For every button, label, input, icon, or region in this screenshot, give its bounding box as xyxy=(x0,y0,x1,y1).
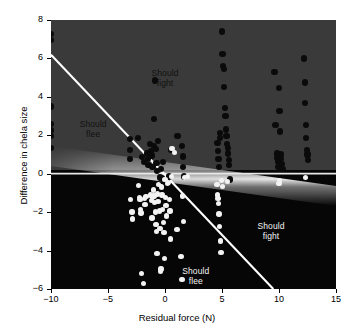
data-point xyxy=(218,250,223,255)
data-point xyxy=(153,160,159,166)
data-point xyxy=(155,199,160,204)
data-point xyxy=(271,69,277,75)
should-flee-lower: Should flee xyxy=(173,266,219,286)
x-tick-mark xyxy=(108,289,109,293)
data-point xyxy=(180,153,186,159)
data-point xyxy=(180,193,185,198)
y-tick-mark xyxy=(47,174,51,175)
data-point xyxy=(303,122,309,128)
data-point xyxy=(159,184,164,189)
data-point xyxy=(223,133,229,139)
x-tick-label: 10 xyxy=(264,294,294,304)
data-point xyxy=(272,122,278,128)
y-tick-label: −4 xyxy=(21,245,43,255)
should-fight-lower: Should fight xyxy=(248,221,294,241)
data-point xyxy=(142,202,147,207)
plot-canvas xyxy=(51,20,336,289)
y-tick-mark xyxy=(47,97,51,98)
x-tick-mark xyxy=(279,289,280,293)
data-point xyxy=(223,126,229,132)
data-point xyxy=(153,146,159,152)
x-tick-mark xyxy=(165,289,166,293)
data-point xyxy=(225,150,231,156)
should-flee-upper: Should flee xyxy=(70,119,116,139)
y-tick-mark xyxy=(47,58,51,59)
data-point xyxy=(215,148,221,154)
y-axis-title: Difference in chela size xyxy=(18,86,29,226)
should-fight-upper: Should fight xyxy=(142,68,188,88)
data-point xyxy=(301,55,307,61)
data-point xyxy=(220,184,225,189)
data-point xyxy=(162,256,167,261)
data-point xyxy=(160,159,166,165)
data-point xyxy=(218,238,223,243)
data-point xyxy=(129,209,134,214)
x-tick-label: −10 xyxy=(36,294,66,304)
data-point xyxy=(222,113,228,119)
y-tick-mark xyxy=(47,20,51,21)
data-point xyxy=(167,208,172,213)
x-tick-mark xyxy=(51,289,52,293)
data-point xyxy=(214,182,219,187)
data-point xyxy=(303,175,308,180)
x-tick-label: 0 xyxy=(150,294,180,304)
x-axis-title: Residual force (N) xyxy=(0,312,354,323)
data-point xyxy=(149,152,155,158)
data-point xyxy=(158,166,164,172)
x-tick-mark xyxy=(336,289,337,293)
y-tick-mark xyxy=(47,135,51,136)
data-point xyxy=(219,51,225,57)
data-point xyxy=(154,251,159,256)
upper-region-background xyxy=(51,20,336,175)
data-point xyxy=(215,156,221,162)
data-point xyxy=(161,230,166,235)
data-point xyxy=(219,28,225,34)
data-point xyxy=(163,203,168,208)
data-point xyxy=(178,254,183,259)
y-tick-label: 6 xyxy=(21,52,43,62)
data-point xyxy=(174,227,179,232)
y-tick-label: −6 xyxy=(21,283,43,293)
data-point xyxy=(216,211,221,216)
x-tick-label: −5 xyxy=(93,294,123,304)
data-point xyxy=(279,166,285,172)
y-tick-mark xyxy=(47,212,51,213)
data-point xyxy=(138,210,143,215)
figure-root: Should fightShould fleeShould fightShoul… xyxy=(0,0,354,333)
data-point xyxy=(277,128,283,134)
data-point xyxy=(174,133,180,139)
data-point xyxy=(158,266,163,271)
data-point xyxy=(166,180,171,185)
x-tick-label: 5 xyxy=(207,294,237,304)
data-point xyxy=(276,108,282,114)
x-tick-mark xyxy=(222,289,223,293)
y-tick-mark xyxy=(47,289,51,290)
y-tick-mark xyxy=(47,251,51,252)
data-point xyxy=(302,79,308,85)
data-point xyxy=(221,66,227,72)
data-point xyxy=(141,281,146,286)
x-tick-label: 15 xyxy=(321,294,351,304)
data-point xyxy=(130,216,135,221)
data-point xyxy=(164,213,169,218)
plot-area: Should fightShould fleeShould fightShoul… xyxy=(51,20,336,289)
y-tick-label: 8 xyxy=(21,14,43,24)
data-point xyxy=(302,100,308,106)
data-point xyxy=(149,215,154,220)
